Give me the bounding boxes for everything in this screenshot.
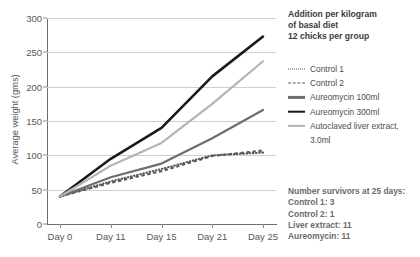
legend-item[interactable]: Aureomycin 300ml (288, 105, 420, 119)
legend-swatch-spacer (288, 135, 305, 145)
legend-item[interactable]: Autoclaved liver extract, (288, 119, 420, 133)
x-tick-mark (263, 224, 264, 228)
plot-area (47, 18, 276, 224)
legend-item[interactable]: Aureomycin 100ml (288, 90, 420, 104)
legend-label: Aureomycin 100ml (310, 92, 379, 102)
chart-figure: Average weight (gms) 050100150200250300 … (0, 0, 420, 257)
y-tick-250: 250 (0, 47, 42, 58)
series-lines (47, 18, 276, 224)
legend-swatch-icon (288, 107, 305, 117)
x-tick-day-25: Day 25 (248, 231, 278, 242)
legend-item[interactable]: Control 1 (288, 62, 420, 76)
legend-label-continuation: 3.0ml (288, 133, 420, 147)
survivors-line: Control 2: 1 (288, 209, 420, 220)
y-tick-100: 100 (0, 150, 42, 161)
legend-swatch-icon (288, 92, 305, 102)
legend-label: Aureomycin 300ml (310, 107, 379, 117)
y-axis-tick-labels: 050100150200250300 (0, 0, 42, 257)
series-line (60, 110, 263, 197)
x-tick-day-11: Day 11 (96, 231, 125, 242)
x-tick-mark (111, 224, 112, 228)
legend-item[interactable]: Control 2 (288, 76, 420, 90)
panel-title-line: Addition per kilogram (288, 9, 420, 20)
y-tick-50: 50 (0, 184, 42, 195)
panel-title-line: of basal diet (288, 20, 420, 31)
legend-swatch-icon (288, 64, 305, 74)
chart-legend: Control 1Control 2Aureomycin 100mlAureom… (288, 62, 420, 147)
y-tick-300: 300 (0, 13, 42, 24)
survivors-line: Number survivors at 25 days: (288, 186, 420, 197)
panel-title: Addition per kilogramof basal diet12 chi… (288, 9, 420, 43)
x-tick-mark (162, 224, 163, 228)
y-tick-200: 200 (0, 81, 42, 92)
x-tick-day-0: Day 0 (48, 231, 73, 242)
legend-label: Control 2 (310, 78, 344, 88)
survivors-line: Control 1: 3 (288, 197, 420, 208)
legend-swatch-icon (288, 78, 305, 88)
survivors-line: Aureomycin: 11 (288, 231, 420, 242)
panel-title-line: 12 chicks per group (288, 31, 420, 42)
x-tick-mark (60, 224, 61, 228)
x-tick-day-15: Day 15 (146, 231, 176, 242)
side-panel: Addition per kilogramof basal diet12 chi… (288, 0, 420, 257)
y-tick-0: 0 (0, 219, 42, 230)
x-tick-mark (212, 224, 213, 228)
legend-label: Control 1 (310, 64, 344, 74)
x-tick-day-21: Day 21 (197, 231, 227, 242)
legend-swatch-icon (288, 121, 305, 131)
plot-wrapper: Average weight (gms) 050100150200250300 … (0, 0, 282, 257)
legend-label: Autoclaved liver extract, (310, 121, 399, 131)
y-tick-150: 150 (0, 116, 42, 127)
legend-label: 3.0ml (310, 135, 330, 145)
survivors-note: Number survivors at 25 days:Control 1: 3… (288, 186, 420, 242)
survivors-line: Liver extract: 11 (288, 220, 420, 231)
series-line (60, 37, 263, 197)
